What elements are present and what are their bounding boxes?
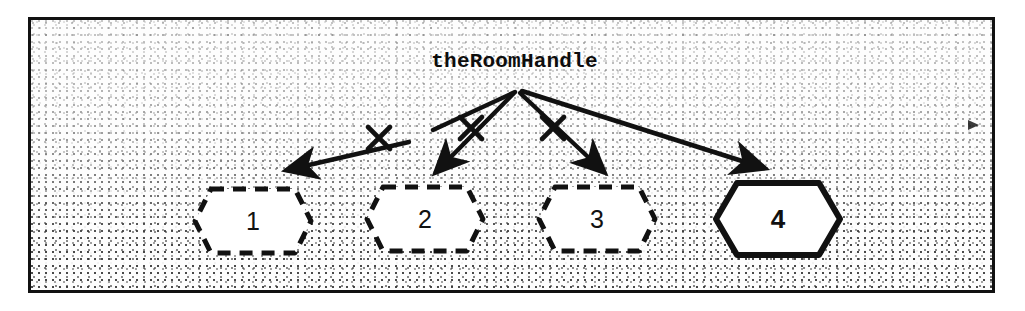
root-handle-label: theRoomHandle: [31, 50, 995, 73]
diagram-frame: theRoomHandle: [28, 17, 995, 293]
edge-3-x-mark-icon: [542, 117, 564, 139]
hexagon-node-3-label: 3: [535, 183, 659, 255]
hexagon-node-2[interactable]: 2: [363, 183, 487, 255]
hexagon-node-3[interactable]: 3: [535, 183, 659, 255]
hexagon-node-4[interactable]: 4: [711, 178, 835, 250]
hexagon-node-1-label: 1: [191, 185, 315, 257]
hexagon-node-2-label: 2: [363, 183, 487, 255]
stray-scan-mark-icon: [968, 120, 979, 130]
figure-root: theRoomHandle: [0, 0, 1025, 311]
edge-to-node-1: [287, 92, 515, 170]
hexagon-node-1[interactable]: 1: [191, 185, 315, 257]
edge-to-node-2: [436, 93, 514, 172]
edge-1-x-mark-icon: [368, 127, 390, 149]
hexagon-node-4-label: 4: [711, 178, 845, 260]
